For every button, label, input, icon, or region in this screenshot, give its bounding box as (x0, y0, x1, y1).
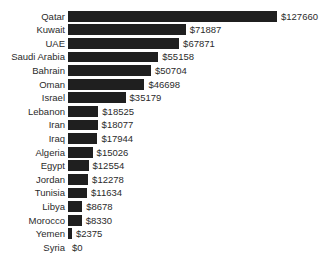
bar-row: Iraq$17944 (0, 132, 336, 146)
bar-row: Qatar$127660 (0, 10, 336, 24)
bar-row: Tunisia$11634 (0, 186, 336, 200)
bar (68, 120, 98, 131)
bar (68, 188, 87, 199)
category-label: Jordan (0, 173, 65, 187)
category-label: Morocco (0, 214, 65, 228)
bar-value-label: $8678 (86, 200, 112, 214)
category-label: Qatar (0, 10, 65, 24)
bar-value-label: $17944 (101, 132, 133, 146)
category-label: Kuwait (0, 23, 65, 37)
category-label: Egypt (0, 159, 65, 173)
bar (68, 201, 82, 212)
category-label: Iran (0, 118, 65, 132)
bar-row: Israel$35179 (0, 91, 336, 105)
bar-row: UAE$67871 (0, 37, 336, 51)
bar-row: Egypt$12554 (0, 159, 336, 173)
bar (68, 79, 144, 90)
bar-value-label: $67871 (183, 37, 215, 51)
bar (68, 133, 97, 144)
bar-row: Syria$0 (0, 241, 336, 255)
bar-value-label: $127660 (281, 10, 318, 24)
bar-row: Saudi Arabia$55158 (0, 50, 336, 64)
bar-value-label: $46698 (148, 78, 180, 92)
plot-area: Qatar$127660Kuwait$71887UAE$67871Saudi A… (0, 0, 336, 270)
bar (68, 38, 179, 49)
bar-value-label: $18077 (102, 118, 134, 132)
bar-value-label: $12278 (92, 173, 124, 187)
bar-value-label: $50704 (155, 64, 187, 78)
bar (68, 106, 98, 117)
bar (68, 11, 277, 22)
category-label: Algeria (0, 146, 65, 160)
category-label: Oman (0, 78, 65, 92)
bar-chart: Qatar$127660Kuwait$71887UAE$67871Saudi A… (0, 0, 336, 270)
category-label: Tunisia (0, 186, 65, 200)
bar-value-label: $2375 (76, 227, 102, 241)
category-label: Yemen (0, 227, 65, 241)
bar-row: Kuwait$71887 (0, 23, 336, 37)
bar-row: Algeria$15026 (0, 146, 336, 160)
bar-row: Bahrain$50704 (0, 64, 336, 78)
bar-value-label: $35179 (130, 91, 162, 105)
category-label: Lebanon (0, 105, 65, 119)
bar-value-label: $12554 (93, 159, 125, 173)
bar-row: Morocco$8330 (0, 214, 336, 228)
bar (68, 160, 89, 171)
bar-value-label: $55158 (162, 50, 194, 64)
bar (68, 215, 82, 226)
bar-value-label: $18525 (102, 105, 134, 119)
bar-value-label: $0 (72, 241, 83, 255)
bar (68, 92, 126, 103)
category-label: Libya (0, 200, 65, 214)
bar (68, 147, 93, 158)
bar-value-label: $15026 (97, 146, 129, 160)
bar-row: Jordan$12278 (0, 173, 336, 187)
bar (68, 24, 186, 35)
bar (68, 65, 151, 76)
bar-value-label: $71887 (190, 23, 222, 37)
bar (68, 228, 72, 239)
bar-row: Yemen$2375 (0, 227, 336, 241)
category-label: Saudi Arabia (0, 50, 65, 64)
category-label: UAE (0, 37, 65, 51)
bar-row: Lebanon$18525 (0, 105, 336, 119)
category-label: Israel (0, 91, 65, 105)
bar-row: Iran$18077 (0, 118, 336, 132)
category-label: Bahrain (0, 64, 65, 78)
bar-value-label: $11634 (91, 186, 122, 200)
bar-value-label: $8330 (86, 214, 112, 228)
bar (68, 52, 158, 63)
bar-row: Libya$8678 (0, 200, 336, 214)
bar (68, 174, 88, 185)
category-label: Iraq (0, 132, 65, 146)
category-label: Syria (0, 241, 65, 255)
bar-row: Oman$46698 (0, 78, 336, 92)
